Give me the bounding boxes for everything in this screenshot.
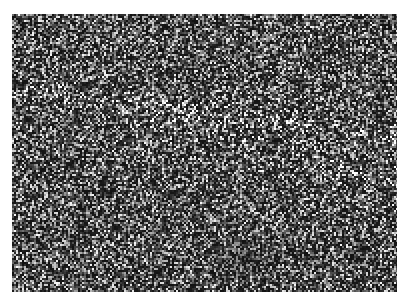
speckle-image	[12, 14, 397, 292]
scale-bar	[305, 19, 390, 20]
texture-canvas	[12, 14, 397, 292]
